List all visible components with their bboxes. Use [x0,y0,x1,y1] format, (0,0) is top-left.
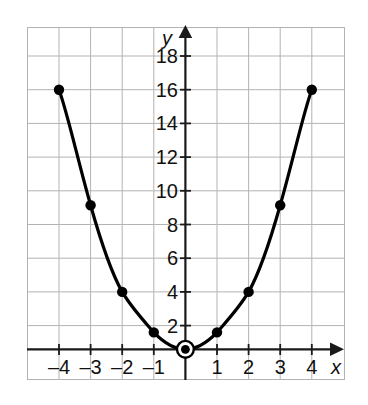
y-tick-label: 8 [167,214,178,236]
x-tick-label: 4 [306,356,317,378]
y-tick-label: 6 [167,247,178,269]
x-tick-label: 1 [211,356,222,378]
data-point [149,327,159,337]
x-tick-label: 2 [243,356,254,378]
data-point [275,200,285,210]
x-tick-label: –4 [48,356,70,378]
data-point [117,287,127,297]
y-tick-label: 16 [156,79,178,101]
y-tick-label: 10 [156,180,178,202]
data-point [307,85,317,95]
y-axis-label: y [160,27,173,49]
x-tick-label: 3 [275,356,286,378]
data-point [85,200,95,210]
y-tick-label: 14 [156,112,178,134]
origin-dot-icon [181,345,190,354]
y-tick-label: 12 [156,146,178,168]
coordinate-plane: 18 16 14 12 10 8 6 4 2 –4 –3 –2 – [0,0,368,405]
x-axis-label: x [330,356,342,378]
y-tick-label: 2 [167,315,178,337]
data-point [243,287,253,297]
data-point [212,327,222,337]
x-tick-label: –1 [143,356,165,378]
x-tick-label: –3 [79,356,101,378]
origin-marker [177,341,194,358]
y-tick-label: 4 [167,281,178,303]
x-tick-label: –2 [111,356,133,378]
data-point [54,85,64,95]
parabola-graph-figure: 18 16 14 12 10 8 6 4 2 –4 –3 –2 – [0,0,368,405]
